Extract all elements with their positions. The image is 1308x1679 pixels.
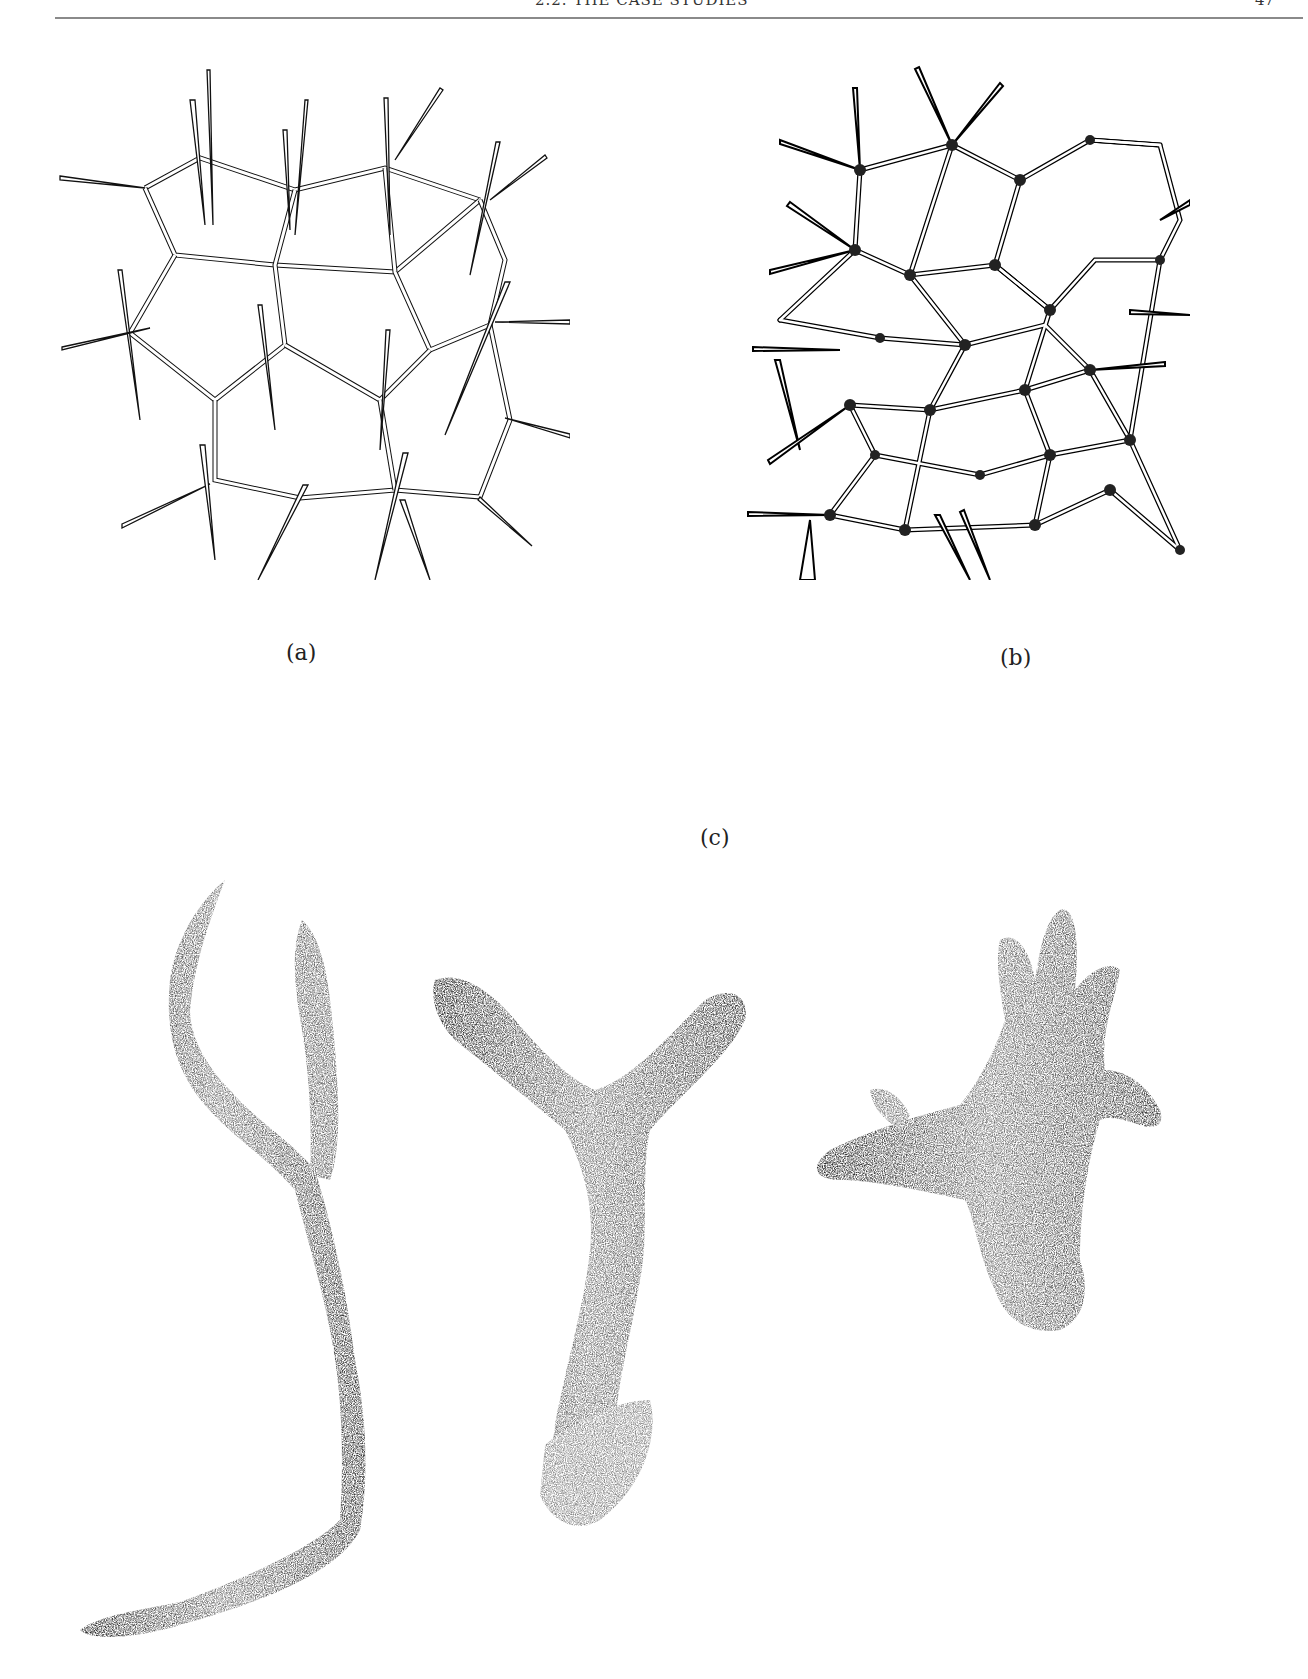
sponge-specimen-3 [817,910,1161,1331]
figure-panel-c [40,880,1280,1670]
running-head: 2.2. THE CASE STUDIES 47 [0,0,1308,11]
spicule-network-b-illustration [690,60,1190,580]
header-rule [55,17,1303,19]
panel-label-a: (a) [286,640,316,665]
sponge-specimen-1 [80,880,365,1637]
sponge-specimens-illustration [40,880,1280,1670]
sponge-specimen-2 [433,977,746,1526]
figure-panel-b [690,60,1190,580]
panel-label-c: (c) [700,825,730,850]
panel-label-b: (b) [1000,645,1031,670]
spicule-network-a-illustration [50,60,570,580]
page-number: 47 [1255,0,1274,9]
figure-panel-a [50,60,570,580]
running-head-title: 2.2. THE CASE STUDIES [535,0,749,9]
